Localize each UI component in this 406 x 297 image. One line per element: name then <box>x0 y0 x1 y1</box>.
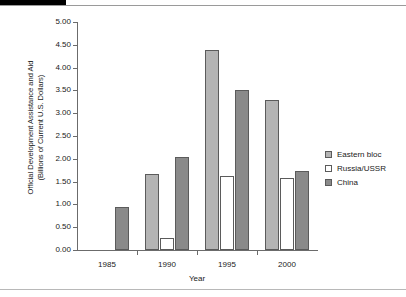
y-axis-tick-label: 5.00 <box>55 17 71 26</box>
x-axis-tick-label: 2000 <box>278 260 296 269</box>
y-axis-tick-label: 0.50 <box>55 222 71 231</box>
legend-item[interactable]: Russia/USSR <box>325 161 405 175</box>
y-axis-tick: 1.50 <box>77 182 81 183</box>
x-axis-tick-mark <box>257 251 258 255</box>
bar <box>280 178 294 250</box>
x-axis-title: Year <box>77 274 317 283</box>
x-axis-tick-label: 1990 <box>158 260 176 269</box>
y-axis-tick-label: 2.00 <box>55 154 71 163</box>
y-axis-tick-mark <box>73 45 77 46</box>
bar <box>115 207 129 250</box>
chart-page: Official Development Assistance and Aid … <box>0 0 406 297</box>
y-axis-tick: 0.50 <box>77 227 81 228</box>
y-axis-tick-mark <box>73 227 77 228</box>
legend-item[interactable]: Eastern bloc <box>325 147 405 161</box>
bar <box>235 90 249 250</box>
y-axis-title-line2: (Billions of Current U.S. Dollars) <box>36 28 46 228</box>
bar <box>145 174 159 250</box>
y-axis-tick-mark <box>73 113 77 114</box>
bar <box>160 238 174 250</box>
y-axis-tick: 0.00 <box>77 250 81 251</box>
y-axis-title-line1: Official Development Assistance and Aid <box>26 61 35 195</box>
bar <box>295 171 309 250</box>
y-axis-tick: 4.50 <box>77 45 81 46</box>
bottom-divider <box>0 289 406 290</box>
y-axis-tick: 2.50 <box>77 136 81 137</box>
bar-chart-figure: Official Development Assistance and Aid … <box>0 6 406 289</box>
bar <box>220 176 234 250</box>
y-axis-tick-label: 0.00 <box>55 245 71 254</box>
x-axis-tick-mark <box>197 251 198 255</box>
y-axis-tick-mark <box>73 204 77 205</box>
bar <box>175 157 189 250</box>
y-axis-tick-mark <box>73 90 77 91</box>
y-axis-tick: 1.00 <box>77 204 81 205</box>
y-axis-tick: 3.50 <box>77 90 81 91</box>
y-axis-tick-label: 3.50 <box>55 85 71 94</box>
bar <box>205 50 219 250</box>
y-axis-tick: 5.00 <box>77 22 81 23</box>
x-axis-tick-label: 1995 <box>218 260 236 269</box>
y-axis-tick-mark <box>73 159 77 160</box>
legend-item-label: Russia/USSR <box>337 164 386 173</box>
legend-swatch-icon <box>325 151 332 158</box>
y-axis-title: Official Development Assistance and Aid … <box>26 28 45 228</box>
legend-swatch-icon <box>325 165 332 172</box>
y-axis-tick-mark <box>73 250 77 251</box>
legend-item-label: China <box>337 178 358 187</box>
legend-swatch-icon <box>325 179 332 186</box>
y-axis-tick-mark <box>73 136 77 137</box>
y-axis-tick-label: 4.50 <box>55 40 71 49</box>
y-axis-tick-mark <box>73 182 77 183</box>
x-axis-tick-mark <box>137 251 138 255</box>
plot-area: 5.004.504.003.503.002.502.001.501.000.50… <box>77 22 317 250</box>
y-axis-tick: 3.00 <box>77 113 81 114</box>
bar <box>265 100 279 250</box>
y-axis-tick-mark <box>73 68 77 69</box>
y-axis-tick-mark <box>73 22 77 23</box>
x-axis-tick-label: 1985 <box>98 260 116 269</box>
legend-item-label: Eastern bloc <box>337 150 381 159</box>
legend-item[interactable]: China <box>325 175 405 189</box>
y-axis-tick-label: 4.00 <box>55 63 71 72</box>
y-axis-tick: 2.00 <box>77 159 81 160</box>
y-axis-tick: 4.00 <box>77 68 81 69</box>
y-axis-tick-label: 2.50 <box>55 131 71 140</box>
y-axis-tick-label: 1.00 <box>55 199 71 208</box>
y-axis-tick-label: 1.50 <box>55 177 71 186</box>
y-axis-tick-label: 3.00 <box>55 108 71 117</box>
chart-legend: Eastern blocRussia/USSRChina <box>325 147 405 189</box>
